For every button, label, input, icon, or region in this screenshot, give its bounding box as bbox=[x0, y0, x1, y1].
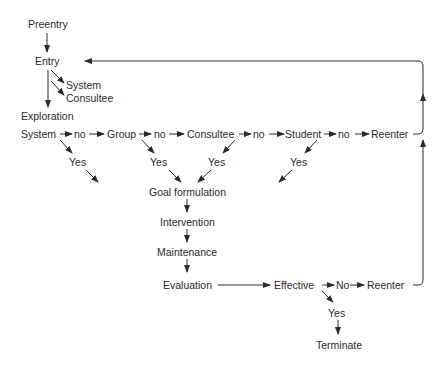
node-group: Group bbox=[107, 128, 136, 140]
node-exploration: Exploration bbox=[21, 110, 74, 122]
label-yes-student: Yes bbox=[290, 156, 307, 168]
node-entry: Entry bbox=[35, 55, 60, 67]
label-no-1: no bbox=[74, 128, 86, 140]
label-no-3: no bbox=[253, 128, 265, 140]
node-entry-consultee: Consultee bbox=[66, 92, 113, 104]
flow-connectors bbox=[0, 0, 444, 366]
label-no-effective: No bbox=[336, 279, 349, 291]
label-yes-system: Yes bbox=[69, 156, 86, 168]
node-reenter-1: Reenter bbox=[371, 128, 408, 140]
node-goal-formulation: Goal formulation bbox=[149, 186, 226, 198]
node-consultee: Consultee bbox=[187, 128, 234, 140]
node-maintenance: Maintenance bbox=[157, 246, 217, 258]
node-entry-system: System bbox=[66, 79, 101, 91]
node-student: Student bbox=[285, 128, 321, 140]
node-evaluation: Evaluation bbox=[163, 279, 212, 291]
node-preentry: Preentry bbox=[28, 18, 68, 30]
label-yes-effective: Yes bbox=[328, 307, 345, 319]
node-terminate: Terminate bbox=[316, 339, 362, 351]
label-no-4: no bbox=[338, 128, 350, 140]
label-yes-consultee: Yes bbox=[208, 156, 225, 168]
node-system: System bbox=[21, 128, 56, 140]
node-reenter-2: Reenter bbox=[367, 279, 404, 291]
label-no-2: no bbox=[154, 128, 166, 140]
node-effective: Effective bbox=[274, 279, 314, 291]
label-yes-group: Yes bbox=[150, 156, 167, 168]
node-intervention: Intervention bbox=[160, 216, 215, 228]
